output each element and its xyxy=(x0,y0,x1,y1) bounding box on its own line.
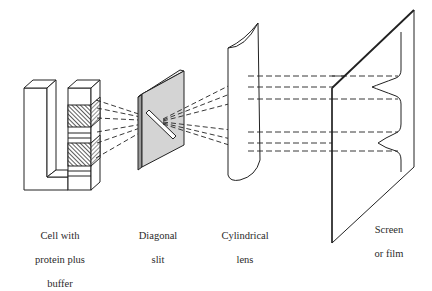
protein-cell xyxy=(24,80,100,190)
screen xyxy=(332,10,414,243)
cylindrical-lens xyxy=(228,23,260,180)
screen-label: Screen or film xyxy=(364,212,414,272)
lens-label: Cylindrical lens xyxy=(212,218,278,278)
slit-label: Diagonal slit xyxy=(128,218,188,278)
diagonal-slit xyxy=(138,70,184,170)
cell-label: Cell with protein plus buffer xyxy=(30,218,90,291)
